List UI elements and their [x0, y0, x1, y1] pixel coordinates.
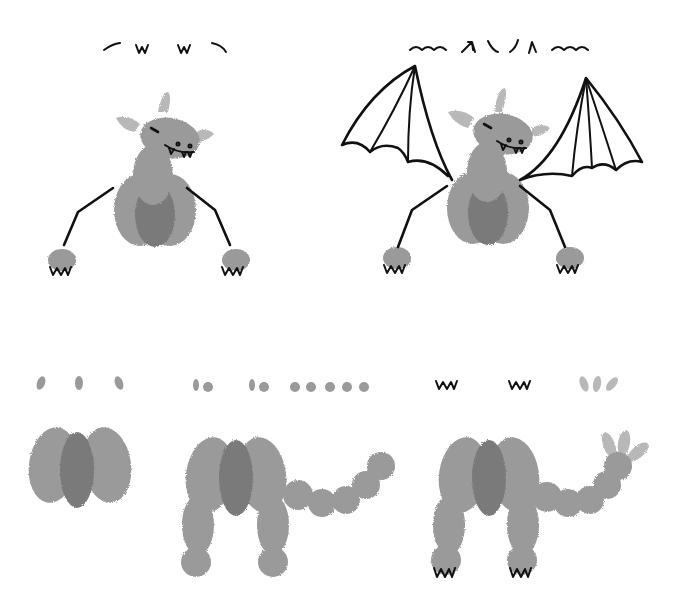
step-1-body — [24, 424, 136, 508]
step-1-guide-prints — [35, 375, 125, 391]
step-2-guide-prints — [193, 379, 369, 392]
step-4-bat — [48, 92, 250, 271]
step-5-guide-strokes — [410, 40, 588, 53]
step-2-body — [181, 434, 395, 577]
step-5-bat — [383, 88, 584, 269]
step-3-guide-strokes — [436, 375, 620, 393]
bat-drawing-illustration — [0, 0, 685, 611]
step-4-guide-strokes — [104, 43, 226, 53]
step-3-body — [431, 429, 652, 575]
